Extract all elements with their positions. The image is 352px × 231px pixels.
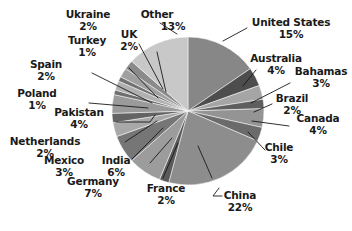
pie-label-netherlands-name: Netherlands bbox=[4, 136, 86, 148]
pie-label-brazil: Brazil 2% bbox=[270, 93, 314, 116]
pie-label-other-percent: 13% bbox=[155, 21, 191, 33]
pie-label-china-percent: 22% bbox=[215, 202, 265, 214]
pie-label-pakistan: Pakistan 4% bbox=[47, 107, 111, 130]
pie-label-france: France 2% bbox=[138, 183, 194, 206]
pie-label-turkey: Turkey 1% bbox=[57, 35, 117, 58]
pie-label-brazil-percent: 2% bbox=[270, 105, 314, 117]
pie-label-china: China 22% bbox=[215, 190, 265, 213]
pie-label-china-name: China bbox=[215, 190, 265, 202]
pie-label-australia: Australia 4% bbox=[247, 53, 305, 76]
pie-label-other: Other bbox=[126, 9, 188, 21]
pie-label-india-name: India bbox=[94, 155, 138, 167]
pie-label-france-name: France bbox=[138, 183, 194, 195]
pie-label-ukraine-name: Ukraine bbox=[51, 9, 125, 21]
pie-label-bahamas-percent: 3% bbox=[291, 78, 351, 90]
pie-label-spain-name: Spain bbox=[20, 59, 72, 71]
pie-label-chile-percent: 3% bbox=[258, 154, 300, 166]
pie-label-united-states-name: United States bbox=[248, 17, 334, 29]
pie-label-france-percent: 2% bbox=[138, 195, 194, 207]
pie-label-chile: Chile 3% bbox=[258, 142, 300, 165]
pie-label-uk-name: UK bbox=[113, 29, 145, 41]
leader-line-united-states bbox=[223, 28, 247, 41]
pie-label-other-value: 13% bbox=[155, 21, 191, 33]
pie-label-germany: Germany 7% bbox=[58, 176, 128, 199]
pie-label-canada-percent: 4% bbox=[290, 125, 346, 137]
pie-label-australia-name: Australia bbox=[247, 53, 305, 65]
pie-label-poland-name: Poland bbox=[8, 88, 66, 100]
pie-label-spain-percent: 2% bbox=[20, 71, 72, 83]
pie-label-germany-percent: 7% bbox=[58, 188, 128, 200]
pie-label-canada: Canada 4% bbox=[290, 113, 346, 136]
pie-label-mexico-name: Mexico bbox=[36, 155, 92, 167]
pie-label-pakistan-percent: 4% bbox=[47, 119, 111, 131]
pie-chart-screenshot: Ukraine 2% Other 13% UK 2% Turkey 1% Spa… bbox=[0, 0, 352, 231]
pie-label-spain: Spain 2% bbox=[20, 59, 72, 82]
pie-label-chile-name: Chile bbox=[258, 142, 300, 154]
pie-label-germany-name: Germany bbox=[58, 176, 128, 188]
pie-label-brazil-name: Brazil bbox=[270, 93, 314, 105]
pie-label-uk-percent: 2% bbox=[113, 41, 145, 53]
pie-label-turkey-name: Turkey bbox=[57, 35, 117, 47]
pie-label-uk: UK 2% bbox=[113, 29, 145, 52]
pie-label-other-name: Other bbox=[126, 9, 188, 21]
pie-label-united-states: United States 15% bbox=[248, 17, 334, 40]
pie-label-united-states-percent: 15% bbox=[248, 29, 334, 41]
pie-label-australia-percent: 4% bbox=[247, 65, 305, 77]
pie-label-turkey-percent: 1% bbox=[57, 47, 117, 59]
pie-label-pakistan-name: Pakistan bbox=[47, 107, 111, 119]
